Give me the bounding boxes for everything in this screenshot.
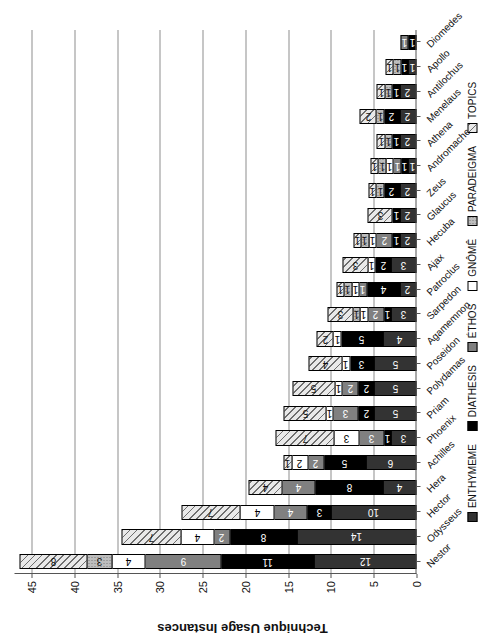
bar-segment: 5	[283, 406, 326, 421]
bar-stack: 3213	[343, 257, 416, 272]
bar-segment: 5	[373, 406, 416, 421]
bar-segment: 8	[314, 480, 382, 495]
y-tick-label: 45	[25, 581, 37, 593]
bar-segment-value: 2	[363, 408, 369, 418]
bar-segment-value: 11	[262, 557, 272, 567]
bar-segment: 4	[308, 356, 342, 371]
bar-segment: 2	[291, 455, 308, 470]
bar-segment: 5	[292, 381, 335, 396]
bar-segment: 1	[283, 455, 292, 470]
legend-item[interactable]: TOPICS	[466, 82, 477, 133]
gridline	[202, 30, 203, 574]
bar-segment-value: 3	[343, 408, 349, 418]
bar-segment-value: 4	[287, 507, 293, 517]
bar-segment-value: 2	[389, 186, 395, 196]
x-category-label: Hecuba	[424, 216, 456, 248]
bar-segment: 2	[359, 109, 376, 124]
bar-segment: 1	[376, 84, 385, 99]
bar-segment-value: 4	[254, 507, 260, 517]
y-tick-mark	[288, 574, 289, 578]
bar-segment-value: 5	[310, 384, 316, 394]
bar-segment-value: 1	[409, 62, 415, 72]
bar-segment-value: 1	[378, 87, 384, 97]
legend-item[interactable]: ENTHYMEME	[466, 444, 477, 522]
bar-segment-value: 4	[295, 482, 301, 492]
x-tick-mark	[416, 239, 420, 240]
bar-segment: 2	[374, 257, 391, 272]
y-tick-mark	[31, 574, 32, 578]
bar-segment-value: 1	[384, 433, 390, 443]
bar-stack: 241111	[337, 282, 416, 297]
y-tick-label: 15	[282, 581, 294, 593]
bar-stack: 2211	[369, 183, 416, 198]
legend-swatch-icon	[467, 123, 477, 133]
bar-segment: 11	[220, 554, 314, 569]
bar-segment: 1	[385, 59, 394, 74]
bar-segment-value: 8	[260, 532, 266, 542]
x-tick-mark	[416, 313, 420, 314]
bar-segment: 2	[399, 282, 416, 297]
y-tick-mark	[373, 574, 374, 578]
bar-segment-value: 1	[368, 260, 374, 270]
bar-segment-value: 2	[363, 384, 369, 394]
bar-segment-value: 1	[401, 161, 407, 171]
bar-segment-value: 4	[125, 557, 131, 567]
x-tick-mark	[416, 511, 420, 512]
bar-segment: 2	[399, 208, 416, 223]
bar-segment-value: 2	[313, 458, 319, 468]
x-category-label: Nestor	[424, 541, 453, 570]
legend-item[interactable]: GNÔMÊ	[466, 239, 477, 291]
bar-segment-value: 2	[219, 532, 225, 542]
bar-stack: 2111	[377, 84, 416, 99]
bar-segment-value: 2	[389, 112, 395, 122]
bar-segment: 7	[121, 529, 181, 544]
bar-segment: 3	[86, 554, 112, 569]
bar-segment: 6	[365, 455, 416, 470]
bar-segment-value: 1	[393, 210, 399, 220]
bar-segment-value: 5	[342, 458, 348, 468]
bar-segment: 5	[373, 381, 416, 396]
bar-segment-value: 3	[400, 309, 406, 319]
bar-segment-value: 1	[394, 62, 400, 72]
x-axis-line	[415, 30, 416, 574]
bar-segment: 8	[229, 529, 297, 544]
bar-segment: 1	[400, 35, 409, 50]
bar-segment-value: 1	[384, 309, 390, 319]
bar-segment-value: 3	[337, 309, 343, 319]
y-tick-label: 10	[324, 581, 336, 593]
bar-segment: 4	[366, 282, 400, 297]
bar-segment-value: 5	[302, 408, 308, 418]
bar-segment: 2	[316, 331, 333, 346]
legend-item[interactable]: ÉTHOS	[466, 304, 477, 352]
bar-segment: 2	[367, 307, 384, 322]
bar-segment: 4	[281, 480, 315, 495]
bar-segment: 2	[383, 183, 400, 198]
bar-segment: 2	[213, 529, 230, 544]
legend-item[interactable]: DIATHESIS	[466, 365, 477, 431]
chart-legend: ENTHYMEMEDIATHESISÉTHOSGNÔMÊPARADEIGMATO…	[466, 30, 477, 574]
y-axis-title: Technique Usage Instances	[41, 621, 443, 636]
bar-segment-value: 2	[297, 458, 303, 468]
bar-segment: 14	[296, 529, 416, 544]
bar-segment-value: 7	[148, 532, 154, 542]
legend-label: DIATHESIS	[466, 365, 477, 417]
x-tick-mark	[416, 561, 420, 562]
bar-segment: 1	[376, 134, 385, 149]
bar-segment-value: 2	[381, 235, 387, 245]
bar-segment-value: 4	[194, 532, 200, 542]
y-tick-label: 40	[68, 581, 80, 593]
bar-segment: 2	[357, 406, 374, 421]
bar-segment-value: 4	[396, 482, 402, 492]
bar-segment: 2	[399, 134, 416, 149]
bar-stack: 65221	[284, 455, 416, 470]
legend-item[interactable]: PARADEIGMA	[466, 146, 477, 226]
bar-segment-value: 1	[369, 186, 375, 196]
bar-segment: 7	[181, 505, 241, 520]
x-tick-mark	[416, 412, 420, 413]
x-tick-mark	[416, 140, 420, 141]
bar-segment-value: 3	[344, 433, 350, 443]
legend-swatch-icon	[467, 512, 477, 522]
bar-segment-value: 2	[365, 112, 371, 122]
x-tick-mark	[416, 165, 420, 166]
bar-segment: 2	[375, 233, 392, 248]
